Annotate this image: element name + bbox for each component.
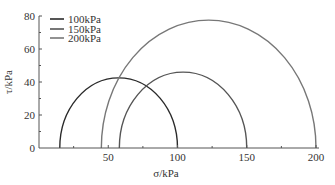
legend-label: 200kPa: [68, 32, 101, 44]
mohr-circle-150kpa: [119, 72, 246, 148]
mohr-circle-chart: 50100150200020406080 100kPa 150kPa 200kP…: [0, 0, 335, 185]
legend: 100kPa 150kPa 200kPa: [50, 13, 101, 44]
y-tick-label: 80: [24, 10, 36, 22]
x-axis-title: σ/kPa: [153, 167, 179, 179]
x-tick-label: 200: [308, 151, 325, 163]
y-tick-label: 0: [30, 142, 36, 154]
mohr-circle-100kpa: [60, 78, 178, 148]
mohr-circle-200kpa: [101, 20, 316, 148]
x-tick-label: 150: [239, 151, 256, 163]
y-tick-label: 20: [24, 109, 36, 121]
x-tick-label: 100: [169, 151, 186, 163]
y-tick-label: 40: [24, 76, 36, 88]
legend-item-200kpa: 200kPa: [50, 32, 101, 44]
y-axis-title: τ/kPa: [2, 70, 14, 94]
y-tick-label: 60: [24, 43, 36, 55]
x-tick-label: 50: [103, 151, 115, 163]
